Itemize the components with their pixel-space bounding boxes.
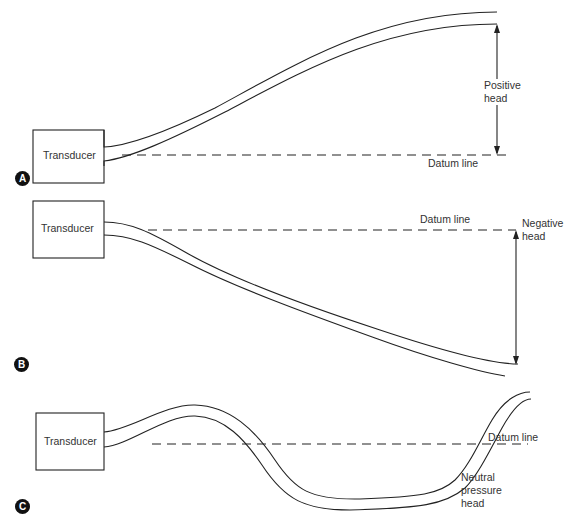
panel-b-graphics [33, 201, 519, 376]
datum-line-label-a: Datum line [428, 157, 478, 170]
panel-badge-c: C [15, 499, 30, 514]
tube-a-upper [104, 12, 497, 147]
datum-line-label-c: Datum line [488, 431, 538, 444]
positive-head-label-line1: Positive [484, 79, 521, 92]
negative-head-label-line1: Negative [522, 217, 563, 230]
negative-head-label-line2: head [522, 230, 563, 243]
tube-b-upper [104, 222, 518, 364]
neutral-head-label-line1: Neutral [461, 471, 502, 484]
positive-head-label-line2: head [484, 92, 521, 105]
panel-badge-a: A [15, 171, 30, 186]
panel-badge-b: B [14, 357, 29, 372]
neutral-head-label-line2: pressure [461, 484, 502, 497]
transducer-label-c: Transducer [44, 435, 97, 448]
datum-line-label-b: Datum line [420, 213, 470, 226]
positive-head-label: Positive head [483, 79, 522, 105]
transducer-label-b: Transducer [41, 222, 94, 235]
transducer-label-a: Transducer [43, 149, 96, 162]
neutral-pressure-head-label: Neutral pressure head [461, 471, 502, 510]
panel-c-graphics [36, 392, 531, 510]
tube-b-lower [104, 235, 505, 376]
tube-a-lower [104, 24, 497, 166]
negative-head-label: Negative head [522, 217, 563, 243]
neutral-head-label-line3: head [461, 497, 502, 510]
